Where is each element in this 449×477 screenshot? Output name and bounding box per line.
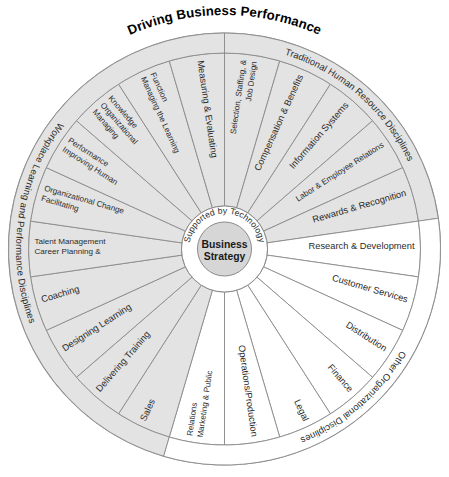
hub-center-label-line1: Business [201,239,247,250]
hub-layer: Supported by TechnologyBusinessStrategy [182,205,268,292]
segment-label: Research & Development [309,241,415,251]
segment-label: Career Planning & [35,247,102,256]
hub-center-label-line2: Strategy [204,251,246,262]
segment-label: Talent Management [35,237,107,246]
wheel-svg: Supported by TechnologyBusinessStrategy … [0,0,449,477]
wheel-diagram: Supported by TechnologyBusinessStrategy … [0,0,449,477]
